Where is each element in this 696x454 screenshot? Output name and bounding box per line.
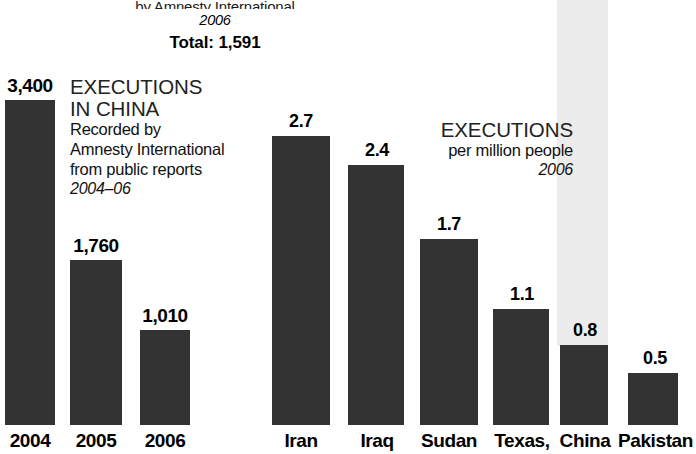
bar-value-iran: 2.7 (268, 111, 334, 132)
bar-sudan (420, 239, 478, 425)
executions-infographic: by Amnesty International 2006 Total: 1,5… (0, 0, 696, 454)
bar-label-pakistan: Pakistan (618, 430, 692, 452)
bar-label-iraq: Iraq (344, 430, 410, 452)
caption-executions-in-china: EXECUTIONS IN CHINA Recorded by Amnesty … (70, 76, 255, 198)
caption-right-title: EXECUTIONS (395, 118, 573, 141)
bar-2005 (70, 260, 122, 425)
bar-value-sudan: 1.7 (412, 214, 486, 235)
bar-label-2004: 2004 (0, 430, 60, 452)
header-year: 2006 (0, 10, 430, 30)
caption-left-title-line1: EXECUTIONS (70, 76, 255, 98)
caption-left-title-line2: IN CHINA (70, 98, 255, 120)
bar-pakistan (628, 373, 678, 425)
bar-iraq (348, 165, 404, 425)
caption-left-body-line1: Recorded by (70, 120, 255, 139)
bar-value-iraq: 2.4 (344, 140, 410, 161)
header-block: by Amnesty International 2006 Total: 1,5… (0, 0, 430, 54)
caption-left-years: 2004–06 (70, 179, 255, 198)
bar-iran (272, 136, 330, 425)
bar-value-2006: 1,010 (135, 305, 195, 327)
bar-value-texas: 1.1 (486, 284, 558, 305)
bar-value-2005: 1,760 (66, 235, 126, 257)
bar-value-2004: 3,400 (0, 75, 60, 97)
bar-china (560, 345, 608, 425)
header-total: Total: 1,591 (0, 32, 430, 54)
bar-value-china: 0.8 (552, 320, 618, 341)
bar-label-iran: Iran (268, 430, 334, 452)
bar-label-china: China (552, 430, 618, 452)
bar-label-2006: 2006 (135, 430, 195, 452)
caption-right-year: 2006 (395, 160, 573, 180)
bar-2004 (5, 100, 55, 425)
caption-left-body-line2: Amnesty International (70, 140, 255, 159)
bar-label-2005: 2005 (66, 430, 126, 452)
bar-label-texas: Texas, (486, 430, 558, 452)
caption-right-subtitle: per million people (395, 141, 573, 160)
bar-value-pakistan: 0.5 (618, 348, 692, 369)
caption-executions-per-million: EXECUTIONS per million people 2006 (395, 118, 573, 180)
bar-2006 (140, 330, 190, 425)
bar-texas (493, 309, 549, 425)
caption-left-body-line3: from public reports (70, 160, 255, 179)
header-source-line: by Amnesty International (0, 0, 430, 9)
bar-label-sudan: Sudan (412, 430, 486, 452)
